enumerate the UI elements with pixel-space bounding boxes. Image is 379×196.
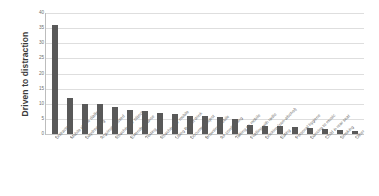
y-axis-tick-label: 10 bbox=[39, 101, 44, 106]
x-slot: Fiddling with radio bbox=[242, 136, 257, 196]
bar bbox=[52, 25, 58, 134]
x-axis-tick-label: Mobile phone dialling bbox=[70, 137, 73, 140]
x-axis-tick-label: Reaching for mobile bbox=[160, 137, 163, 140]
x-axis-tick-label: Child in rear seat bbox=[325, 137, 328, 140]
x-slot: Other bbox=[347, 136, 362, 196]
x-axis-tick-label: Smoking bbox=[340, 137, 343, 140]
x-axis-tick-label: Using the hot drink bbox=[175, 137, 178, 140]
x-axis-tick-label: Drinking (non-alcohol) bbox=[265, 137, 268, 140]
x-axis-tick-label: Talking on mobile bbox=[235, 137, 238, 140]
x-slot: Arguing/stressed bbox=[93, 136, 108, 196]
y-axis-tick-label: 25 bbox=[39, 56, 44, 61]
x-axis-tick-label: Browsing mobile bbox=[205, 137, 208, 140]
x-slot: Using the hot drink bbox=[168, 136, 183, 196]
x-axis-tick-label: Daydreaming bbox=[85, 137, 88, 140]
x-axis-tick-label: Other bbox=[355, 137, 358, 140]
x-slot: Mobile phone dialling bbox=[63, 136, 78, 196]
x-axis-tick-labels: DistractedMobile phone diallingDaydreami… bbox=[46, 136, 364, 196]
x-axis-tick-label: Fiddling with radio bbox=[250, 137, 253, 140]
x-axis-tick-label: Air conditioning bbox=[220, 137, 223, 140]
x-slot: Drinking (non-alcohol) bbox=[257, 136, 272, 196]
x-slot: Dancing to music bbox=[302, 136, 317, 196]
x-axis-tick-label: Reaching for object bbox=[115, 137, 118, 140]
x-axis-tick-label: Extended glance bbox=[130, 137, 133, 140]
y-axis-tick-label: 30 bbox=[39, 41, 44, 46]
x-axis-tick-label: Texting bbox=[145, 137, 148, 140]
x-axis-tick-label: Arguing/stressed bbox=[100, 137, 103, 140]
x-slot: Smoking bbox=[332, 136, 347, 196]
x-slot: Reaching for object bbox=[108, 136, 123, 196]
x-slot: Reaching for mobile bbox=[153, 136, 168, 196]
y-axis-tick-label: 35 bbox=[39, 26, 44, 31]
x-slot: Document/object bbox=[183, 136, 198, 196]
x-slot: Texting bbox=[138, 136, 153, 196]
x-axis-tick-label: Dancing to music bbox=[310, 137, 313, 140]
bar-slot bbox=[63, 13, 78, 134]
y-axis-tick-label: 0 bbox=[41, 132, 44, 137]
bar-chart: Driven to distraction 0510152025303540 D… bbox=[0, 0, 379, 196]
y-axis-tick-label: 40 bbox=[39, 11, 44, 16]
x-slot: Child in rear seat bbox=[317, 136, 332, 196]
bar bbox=[157, 113, 163, 134]
y-axis-tick-label: 15 bbox=[39, 86, 44, 91]
x-slot: Eating bbox=[272, 136, 287, 196]
x-axis-tick-label: Eating bbox=[280, 137, 283, 140]
x-slot: Distracted bbox=[48, 136, 63, 196]
bar-slot bbox=[48, 13, 63, 134]
y-axis-tick-label: 5 bbox=[41, 117, 44, 122]
x-slot: Talking on mobile bbox=[227, 136, 242, 196]
x-slot: Personal hygiene bbox=[287, 136, 302, 196]
y-axis-tick-labels: 0510152025303540 bbox=[30, 13, 44, 134]
x-slot: Browsing mobile bbox=[198, 136, 213, 196]
x-axis-tick-label: Distracted bbox=[55, 137, 58, 140]
x-slot: Air conditioning bbox=[212, 136, 227, 196]
x-axis-tick-label: Document/object bbox=[190, 137, 193, 140]
x-axis-tick-label: Personal hygiene bbox=[295, 137, 298, 140]
x-slot: Extended glance bbox=[123, 136, 138, 196]
x-slot: Daydreaming bbox=[78, 136, 93, 196]
y-axis-tick-label: 20 bbox=[39, 71, 44, 76]
